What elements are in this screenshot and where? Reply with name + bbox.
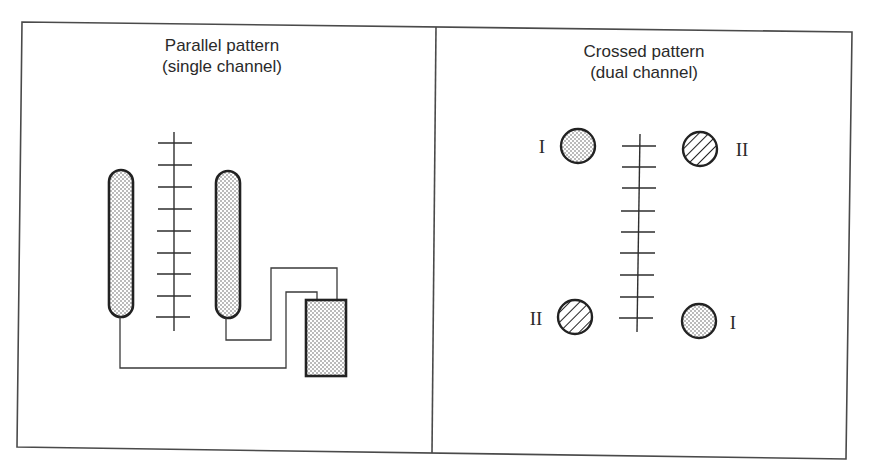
stimulator-unit-box <box>306 300 346 376</box>
left-elongated-electrode <box>109 170 133 317</box>
channel-label: II <box>530 308 543 329</box>
panel-subtitle-line2: (dual channel) <box>590 63 698 82</box>
panel-subtitle-line2: (single channel) <box>162 57 282 76</box>
hatched-circle-electrode <box>558 300 592 334</box>
panel-crossed-pattern: Crossed pattern (dual channel) I II II I <box>530 42 749 338</box>
ladder-icon <box>156 132 192 331</box>
right-elongated-electrode <box>216 171 240 318</box>
electrode-pattern-figure: Parallel pattern (single channel) Crosse… <box>0 0 869 475</box>
panel-divider <box>432 27 436 453</box>
panel-parallel-pattern: Parallel pattern (single channel) <box>109 36 346 376</box>
panel-title-line1: Crossed pattern <box>584 42 705 61</box>
hatched-circle-electrode <box>683 132 717 166</box>
channel-label: II <box>736 139 749 160</box>
stippled-circle-electrode <box>561 129 595 163</box>
channel-label: I <box>539 136 545 157</box>
stippled-circle-electrode <box>682 304 716 338</box>
panel-title-line1: Parallel pattern <box>165 36 279 55</box>
ladder-icon <box>619 134 656 332</box>
channel-label: I <box>730 312 736 333</box>
